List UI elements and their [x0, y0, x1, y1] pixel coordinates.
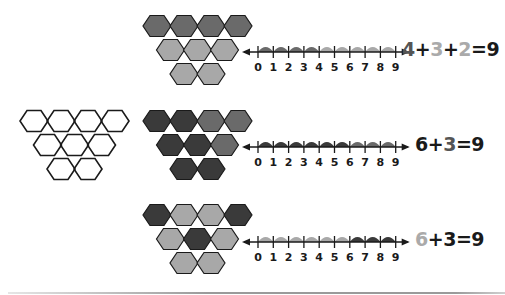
tick-label: 4 [315, 156, 323, 169]
hexagon [197, 16, 225, 37]
equation-part: 4 [402, 38, 415, 60]
arrow-right-icon [402, 239, 410, 246]
hexagon [197, 111, 225, 132]
hexagon [197, 253, 225, 274]
hexagon [224, 111, 252, 132]
hexagon [170, 111, 198, 132]
hexagon [61, 135, 89, 156]
hexagon [157, 229, 185, 250]
hexagon [197, 159, 225, 180]
hexagon [170, 205, 198, 226]
tick-label: 5 [331, 61, 339, 74]
tick-label: 7 [361, 251, 369, 264]
hexagon [211, 40, 239, 61]
hexagon [143, 16, 171, 37]
tick-label: 6 [346, 156, 354, 169]
hexagon [197, 64, 225, 85]
hexagon [20, 111, 48, 132]
tick-label: 4 [315, 61, 323, 74]
tick-label: 8 [377, 156, 385, 169]
tick-label: 9 [392, 61, 400, 74]
number-line-row-3: 0123456789 [242, 236, 410, 264]
tick-label: 9 [392, 156, 400, 169]
equation-part: + [443, 38, 458, 60]
tick-label: 1 [269, 61, 277, 74]
arrow-right-icon [402, 144, 410, 151]
hexagon [170, 64, 198, 85]
hexagon [211, 229, 239, 250]
tick-label: 3 [300, 156, 308, 169]
tick-label: 1 [269, 251, 277, 264]
equation-row-2: 6+3=9 [415, 133, 484, 155]
hexagon [34, 135, 62, 156]
equation-part: + [428, 133, 443, 155]
equation-part: 3 [443, 133, 456, 155]
hexagon [101, 111, 129, 132]
hexagon [170, 159, 198, 180]
tick-label: 3 [300, 61, 308, 74]
tick-label: 3 [300, 251, 308, 264]
tick-label: 2 [285, 251, 293, 264]
hexagon-outline-shape [20, 111, 129, 180]
tick-label: 9 [392, 251, 400, 264]
tick-label: 5 [331, 156, 339, 169]
tick-label: 7 [361, 61, 369, 74]
hexagon [170, 16, 198, 37]
hexagon [74, 159, 102, 180]
equation-part: =9 [471, 38, 499, 60]
tick-label: 0 [254, 156, 262, 169]
equation-part: =9 [456, 228, 484, 250]
hexagon [197, 205, 225, 226]
bottom-divider [8, 292, 505, 294]
arrow-left-icon [242, 144, 250, 151]
hexagon [224, 205, 252, 226]
tick-label: 1 [269, 156, 277, 169]
equation-part: + [428, 228, 443, 250]
hexagon [74, 111, 102, 132]
number-line-row-1: 0123456789 [242, 46, 410, 74]
equation-row-1: 4+3+2=9 [402, 38, 499, 60]
tick-label: 7 [361, 156, 369, 169]
equation-part: 6 [415, 133, 428, 155]
tick-label: 0 [254, 251, 262, 264]
equation-part: =9 [456, 133, 484, 155]
tick-label: 2 [285, 156, 293, 169]
hexagon-shape-row-3 [143, 205, 252, 274]
hexagon [47, 111, 75, 132]
equation-part: + [415, 38, 430, 60]
equation-part: 3 [443, 228, 456, 250]
hexagon [47, 159, 75, 180]
hexagon [88, 135, 116, 156]
hexagon [184, 135, 212, 156]
number-line-row-2: 0123456789 [242, 141, 410, 169]
tick-label: 8 [377, 61, 385, 74]
hexagon-shape-row-1 [143, 16, 252, 85]
equation-part: 6 [415, 228, 428, 250]
tick-label: 0 [254, 61, 262, 74]
arrow-left-icon [242, 239, 250, 246]
equation-row-3: 6+3=9 [415, 228, 484, 250]
hexagon [184, 229, 212, 250]
arrow-left-icon [242, 49, 250, 56]
tick-label: 2 [285, 61, 293, 74]
hexagon [224, 16, 252, 37]
hexagon [157, 40, 185, 61]
hexagon [170, 253, 198, 274]
tick-label: 6 [346, 61, 354, 74]
hexagon-shape-row-2 [143, 111, 252, 180]
hexagon [211, 135, 239, 156]
tick-label: 6 [346, 251, 354, 264]
tick-label: 5 [331, 251, 339, 264]
equation-part: 2 [458, 38, 471, 60]
hexagon [184, 40, 212, 61]
equation-part: 3 [430, 38, 443, 60]
tick-label: 4 [315, 251, 323, 264]
hexagon [143, 111, 171, 132]
hexagon [157, 135, 185, 156]
tick-label: 8 [377, 251, 385, 264]
hexagon [143, 205, 171, 226]
